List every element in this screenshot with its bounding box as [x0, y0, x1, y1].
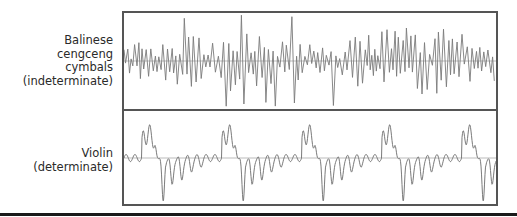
- violin-waveform: [124, 111, 496, 204]
- cymbals-waveform: [124, 13, 496, 109]
- violin-label-line: (determinate): [33, 161, 113, 175]
- violin-label-line: Violin: [33, 147, 113, 161]
- bottom-rule: [0, 213, 517, 216]
- cymbals-label-line: cymbals: [23, 61, 113, 75]
- cymbals-label-line: cengceng: [23, 48, 113, 62]
- cymbals-label-line: (indeterminate): [23, 75, 113, 89]
- waveform-frame: [122, 11, 498, 206]
- cymbals-label-line: Balinese: [23, 34, 113, 48]
- cymbals-label: Balinese cengceng cymbals (indeterminate…: [23, 34, 113, 88]
- violin-label: Violin (determinate): [33, 147, 113, 174]
- violin-wave-line: [124, 125, 496, 201]
